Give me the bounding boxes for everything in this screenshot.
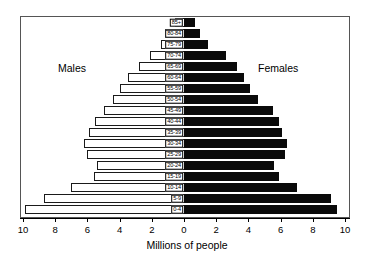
age-group-label: 35-39 — [165, 128, 183, 137]
age-group-label: 40-44 — [165, 117, 183, 126]
age-group-label: 15-19 — [165, 172, 183, 181]
pyramid-row: 20-24 — [0, 161, 330, 170]
x-tick — [345, 218, 346, 222]
female-bar — [184, 194, 331, 203]
female-bar — [184, 150, 285, 159]
female-bar — [184, 18, 195, 27]
age-group-label: 55-59 — [165, 84, 183, 93]
female-bar — [184, 205, 337, 214]
age-group-label: 5-9 — [171, 194, 183, 203]
pyramid-row: 35-39 — [0, 128, 330, 137]
male-bar — [44, 194, 184, 203]
female-bar — [184, 106, 273, 115]
age-group-label: 85+ — [170, 18, 183, 27]
female-bar — [184, 172, 279, 181]
x-tick — [281, 218, 282, 222]
x-tick — [248, 218, 249, 222]
female-bar — [184, 128, 282, 137]
female-bar — [184, 40, 208, 49]
x-axis-line — [20, 218, 350, 219]
female-bar — [184, 117, 279, 126]
age-group-label: 80-84 — [165, 29, 183, 38]
x-tick-label: 8 — [53, 224, 58, 235]
pyramid-row: 40-44 — [0, 117, 330, 126]
pyramid-row: 75-79 — [0, 40, 330, 49]
pyramid-row: 30-34 — [0, 139, 330, 148]
pyramid-row: 70-74 — [0, 51, 330, 60]
female-bar — [184, 51, 226, 60]
pyramid-row: 10-14 — [0, 183, 330, 192]
x-tick — [152, 218, 153, 222]
pyramid-row: 0-4 — [0, 205, 330, 214]
pyramid-row: 45-49 — [0, 106, 330, 115]
female-bar — [184, 84, 250, 93]
pyramid-row: 25-29 — [0, 150, 330, 159]
age-group-label: 30-34 — [165, 139, 183, 148]
x-tick-label: 2 — [214, 224, 219, 235]
x-tick — [216, 218, 217, 222]
age-group-label: 50-54 — [165, 95, 183, 104]
age-group-label: 0-4 — [171, 205, 183, 214]
x-tick — [87, 218, 88, 222]
female-bar — [184, 73, 244, 82]
x-tick — [184, 218, 185, 222]
x-tick-label: 8 — [310, 224, 315, 235]
x-tick — [55, 218, 56, 222]
x-tick-label: 10 — [340, 224, 351, 235]
x-tick-label: 6 — [278, 224, 283, 235]
male-bar — [25, 205, 184, 214]
x-tick — [313, 218, 314, 222]
x-tick — [23, 218, 24, 222]
age-group-label: 75-79 — [165, 40, 183, 49]
x-tick — [120, 218, 121, 222]
female-bar — [184, 139, 287, 148]
pyramid-row: 85+ — [0, 18, 330, 27]
x-tick-label: 10 — [18, 224, 29, 235]
female-bar — [184, 62, 237, 71]
pyramid-row: 50-54 — [0, 95, 330, 104]
pyramid-row: 55-59 — [0, 84, 330, 93]
age-group-label: 60-64 — [165, 73, 183, 82]
age-group-label: 65-69 — [165, 62, 183, 71]
x-tick-label: 0 — [181, 224, 186, 235]
pyramid-row: 15-19 — [0, 172, 330, 181]
female-bar — [184, 95, 258, 104]
age-group-label: 20-24 — [165, 161, 183, 170]
x-tick-label: 6 — [85, 224, 90, 235]
female-bar — [184, 183, 297, 192]
age-group-label: 45-49 — [165, 106, 183, 115]
age-group-label: 25-29 — [165, 150, 183, 159]
x-tick-label: 4 — [117, 224, 122, 235]
x-tick-label: 4 — [246, 224, 251, 235]
age-group-label: 10-14 — [165, 183, 183, 192]
x-axis-title: Millions of people — [0, 239, 374, 251]
pyramid-row: 65-69 — [0, 62, 330, 71]
population-pyramid-chart: Males Females 85+80-8475-7970-7465-6960-… — [0, 0, 374, 259]
pyramid-row: 5-9 — [0, 194, 330, 203]
female-bar — [184, 161, 274, 170]
pyramid-row: 80-84 — [0, 29, 330, 38]
x-tick-label: 2 — [149, 224, 154, 235]
age-group-label: 70-74 — [165, 51, 183, 60]
female-bar — [184, 29, 200, 38]
pyramid-row: 60-64 — [0, 73, 330, 82]
